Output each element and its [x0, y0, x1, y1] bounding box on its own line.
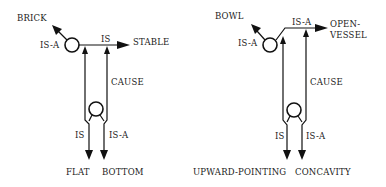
connector: [100, 115, 104, 121]
semantic-network-diagrams: BRICK IS-A IS STABLE CAUSE IS IS-A FLAT …: [0, 0, 386, 187]
node-label-stable: STABLE: [133, 37, 169, 47]
connector: [287, 116, 290, 122]
node-label-bottom: BOTTOM: [102, 167, 144, 177]
arrowhead: [280, 36, 286, 44]
connector: [89, 115, 92, 121]
edge-is-a-brick: [58, 31, 67, 40]
arrowhead: [298, 150, 306, 160]
edge-label-is: IS: [75, 130, 85, 140]
node-circle-bottom: [287, 103, 301, 117]
arrowhead: [315, 24, 328, 32]
edge-label-is: IS: [275, 131, 285, 141]
arrowhead: [117, 41, 130, 49]
node-label-upward-pointing: UPWARD-POINTING: [193, 167, 286, 177]
edge-is-a-bowl: [257, 31, 265, 40]
node-circle-top: [65, 38, 79, 52]
node-label-brick: BRICK: [17, 13, 47, 23]
arrowhead: [251, 24, 261, 34]
edge-label-is-a: IS-A: [109, 130, 129, 140]
arrowhead: [283, 150, 291, 160]
edge-label-is-a: IS-A: [292, 17, 312, 27]
edge-label-is: IS: [101, 34, 111, 44]
arrowhead: [82, 46, 88, 54]
node-label-flat: FLAT: [66, 167, 90, 177]
arrowhead: [303, 29, 309, 37]
connector: [298, 116, 302, 122]
node-label-vessel: VESSEL: [329, 30, 367, 40]
arrowhead: [100, 150, 108, 160]
edge-label-is-a: IS-A: [306, 131, 326, 141]
edge-is-a-open-vessel: [276, 28, 317, 40]
edge-cause-left: [85, 52, 89, 155]
edge-label-cause: CAUSE: [111, 77, 144, 87]
arrowhead: [104, 46, 110, 54]
edge-label-cause: CAUSE: [310, 77, 343, 87]
node-label-open: OPEN-: [330, 19, 360, 29]
arrowhead: [85, 150, 93, 160]
node-label-concavity: CONCAVITY: [295, 167, 351, 177]
diagram-brick: BRICK IS-A IS STABLE CAUSE IS IS-A FLAT …: [17, 13, 169, 177]
diagram-bowl: BOWL IS-A IS-A OPEN- VESSEL CAUSE IS IS-…: [193, 11, 367, 177]
edge-label-is-a: IS-A: [40, 40, 60, 50]
edge-cause-right: [104, 52, 107, 155]
node-circle-bottom: [89, 102, 103, 116]
edge-label-is-a: IS-A: [238, 38, 258, 48]
node-label-bowl: BOWL: [215, 11, 244, 21]
node-circle-top: [263, 38, 277, 52]
